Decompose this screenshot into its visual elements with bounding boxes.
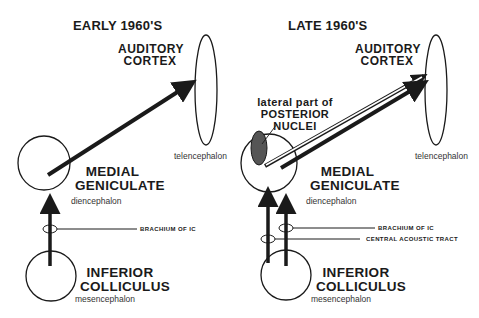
panel-title-early: EARLY 1960'S (73, 18, 162, 33)
diencephalon-label: diencephalon (306, 196, 357, 206)
inferior-colliculus-label: INFERIOR COLLICULUS (316, 266, 396, 294)
panel-title-late: LATE 1960'S (288, 18, 367, 33)
medial-geniculate-shape (18, 136, 70, 190)
central-acoustic-tract-label: CENTRAL ACOUSTIC TRACT (366, 236, 458, 242)
brachium-of-ic-label: BRACHIUM OF IC (140, 226, 196, 232)
telencephalon-label: telencephalon (174, 151, 227, 161)
posterior-nuclei-shape (251, 131, 267, 165)
medial-geniculate-label: MEDIAL GENICULATE (75, 165, 150, 193)
label-line: MEDIAL (310, 165, 385, 179)
label-line: INFERIOR (80, 266, 160, 280)
brachium-of-ic-label: BRACHIUM OF IC (378, 225, 434, 231)
label-line: CORTEX (118, 55, 182, 67)
mg-to-cortex-arrow (48, 84, 190, 175)
telencephalon-label: telencephalon (415, 151, 468, 161)
label-line: CORTEX (355, 55, 419, 67)
auditory-cortex-shape (195, 35, 217, 145)
label-line: COLLICULUS (80, 280, 160, 294)
posterior-nuclei-label: lateral part of POSTERIOR NUCLEI (255, 96, 335, 132)
label-line: lateral part of (255, 96, 335, 108)
mesencephalon-label: mesencephalon (75, 294, 135, 304)
auditory-cortex-shape (425, 35, 447, 145)
mesencephalon-label: mesencephalon (311, 294, 371, 304)
inferior-colliculus-label: INFERIOR COLLICULUS (80, 266, 160, 294)
label-line: MEDIAL (75, 165, 150, 179)
label-line: INFERIOR (316, 266, 396, 280)
label-line: NUCLEI (255, 120, 335, 132)
auditory-cortex-label: AUDITORY CORTEX (355, 43, 419, 67)
label-line: GENICULATE (310, 179, 385, 193)
medial-geniculate-label: MEDIAL GENICULATE (310, 165, 385, 193)
label-line: COLLICULUS (316, 280, 396, 294)
diencephalon-label: diencephalon (71, 196, 122, 206)
label-line: GENICULATE (75, 179, 150, 193)
label-line: POSTERIOR (255, 108, 335, 120)
auditory-cortex-label: AUDITORY CORTEX (118, 43, 182, 67)
